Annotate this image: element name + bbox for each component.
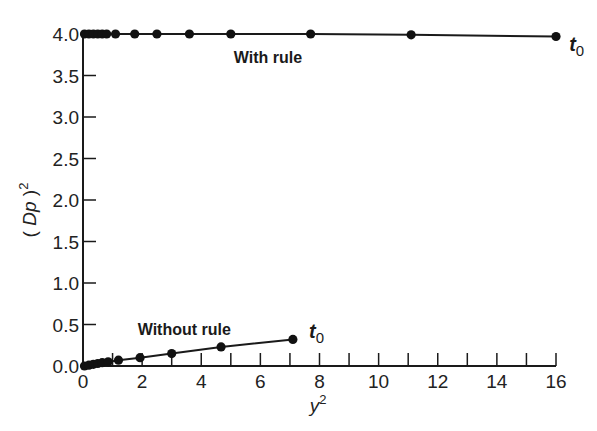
chart: 0.00.51.01.52.02.53.03.54.00246810121416… (0, 0, 597, 431)
x-tick-label: 6 (255, 371, 266, 392)
x-tick-label: 2 (137, 371, 148, 392)
y-tick-label: 3.5 (53, 66, 79, 87)
t0-label: t0 (569, 33, 584, 59)
x-tick-label: 4 (196, 371, 207, 392)
y-tick-label: 1.5 (53, 232, 79, 253)
x-tick-label: 0 (78, 371, 89, 392)
data-point (551, 32, 560, 41)
data-point (288, 335, 297, 344)
y-tick-label: 0.0 (53, 356, 79, 377)
data-point (102, 29, 111, 38)
y-tick-label: 1.0 (53, 273, 79, 294)
data-point (185, 29, 194, 38)
data-point (135, 353, 144, 362)
x-axis-title: y2 (308, 392, 327, 416)
data-point (216, 342, 225, 351)
data-point (114, 356, 123, 365)
y-tick-label: 0.5 (53, 315, 79, 336)
y-axis-title: ( Dp )2 (16, 183, 40, 238)
x-tick-label: 14 (486, 371, 508, 392)
data-point (111, 29, 120, 38)
y-tick-label: 4.0 (53, 24, 79, 45)
x-tick-label: 10 (368, 371, 389, 392)
data-point (306, 29, 315, 38)
y-tick-label: 2.0 (53, 190, 79, 211)
x-tick-label: 12 (427, 371, 448, 392)
x-tick-label: 8 (314, 371, 325, 392)
data-point (130, 29, 139, 38)
y-tick-label: 3.0 (53, 107, 79, 128)
data-point (226, 29, 235, 38)
data-point (407, 30, 416, 39)
series-layer (80, 29, 561, 370)
series-with-rule (80, 29, 561, 41)
x-tick-label: 16 (545, 371, 566, 392)
data-point (152, 29, 161, 38)
series-label: Without rule (138, 321, 231, 338)
axes: 0.00.51.01.52.02.53.03.54.00246810121416… (16, 24, 567, 416)
series-label: With rule (234, 49, 302, 66)
t0-label: t0 (309, 320, 324, 346)
data-point (167, 349, 176, 358)
annotations: With rulet0Without rulet0 (138, 33, 585, 346)
data-point (104, 357, 113, 366)
y-tick-label: 2.5 (53, 149, 79, 170)
